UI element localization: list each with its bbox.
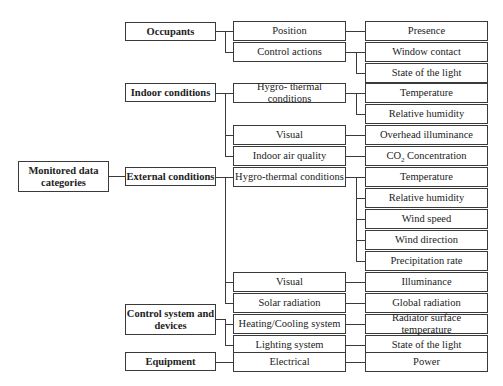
item-label: Presence	[408, 25, 445, 37]
item-label: Global radiation	[392, 297, 461, 309]
item-radiator-surface-temperature: Radiator surface temperature	[365, 314, 488, 334]
category-equipment: Equipment	[125, 352, 216, 371]
category-label: External conditions	[127, 171, 215, 183]
category-label: Indoor conditions	[131, 87, 210, 99]
connector	[225, 324, 226, 345]
item-label: Wind direction	[395, 234, 458, 246]
subcategory-external-visual: Visual	[233, 272, 346, 292]
item-label: Illuminance	[401, 276, 451, 288]
category-label: Equipment	[145, 356, 195, 368]
item-label: State of the light	[392, 67, 462, 79]
subcategory-external-hygro-thermal: Hygro-thermal conditions	[233, 167, 346, 187]
connector	[345, 324, 366, 325]
subcategory-position: Position	[233, 21, 346, 41]
item-label: Relative humidity	[389, 192, 465, 204]
subcategory-control-actions: Control actions	[233, 42, 346, 62]
item-wind-speed: Wind speed	[365, 209, 488, 229]
item-precipitation-rate: Precipitation rate	[365, 251, 488, 271]
connector	[345, 303, 366, 304]
category-occupants: Occupants	[125, 22, 216, 41]
item-label: Temperature	[400, 171, 453, 183]
item-indoor-temperature: Temperature	[365, 83, 488, 103]
item-indoor-relative-humidity: Relative humidity	[365, 104, 488, 124]
item-label: CO2 Concentration	[386, 150, 466, 162]
root-node-monitored-data-categories: Monitored data categories	[18, 161, 109, 192]
connector	[225, 31, 226, 52]
item-overhead-illuminance: Overhead illuminance	[365, 125, 488, 145]
subcategory-indoor-hygro-thermal: Hygro- thermal conditions	[233, 83, 346, 103]
item-power: Power	[365, 352, 488, 372]
item-label: Temperature	[400, 87, 453, 99]
connector	[225, 93, 226, 156]
connector	[225, 177, 226, 303]
item-illuminance: Illuminance	[365, 272, 488, 292]
subcategory-label: Electrical	[269, 356, 309, 368]
item-window-contact: Window contact	[365, 42, 488, 62]
subcategory-label: Hygro- thermal conditions	[234, 81, 345, 105]
subcategory-label: Visual	[276, 129, 303, 141]
item-external-temperature: Temperature	[365, 167, 488, 187]
root-label: Monitored data categories	[19, 165, 108, 189]
subcategory-label: Hygro-thermal conditions	[235, 171, 344, 183]
item-wind-direction: Wind direction	[365, 230, 488, 250]
category-external-conditions: External conditions	[125, 167, 216, 186]
subcategory-label: Heating/Cooling system	[239, 318, 341, 330]
subcategory-label: Lighting system	[256, 339, 324, 351]
subcategory-indoor-air-quality: Indoor air quality	[233, 146, 346, 166]
category-control-system-and-devices: Control system and devices	[125, 304, 216, 335]
item-label: Radiator surface temperature	[366, 312, 487, 336]
item-label: Wind speed	[402, 213, 451, 225]
connector	[356, 52, 357, 73]
subcategory-indoor-visual: Visual	[233, 125, 346, 145]
item-label: Precipitation rate	[390, 255, 462, 267]
connector	[215, 362, 234, 363]
item-label: Power	[413, 356, 440, 368]
subcategory-label: Visual	[276, 276, 303, 288]
item-global-radiation: Global radiation	[365, 293, 488, 313]
connector	[108, 176, 126, 177]
connector	[345, 282, 366, 283]
connector	[356, 93, 357, 114]
item-label: Relative humidity	[389, 108, 465, 120]
subcategory-label: Indoor air quality	[253, 150, 326, 162]
item-label: State of the light	[392, 339, 462, 351]
subcategory-electrical: Electrical	[233, 352, 346, 372]
item-state-of-the-light: State of the light	[365, 63, 488, 83]
subcategory-label: Solar radiation	[258, 297, 320, 309]
subcategory-label: Position	[272, 25, 306, 37]
item-external-relative-humidity: Relative humidity	[365, 188, 488, 208]
category-label: Occupants	[147, 26, 195, 38]
subcategory-label: Control actions	[257, 46, 321, 58]
item-label: Overhead illuminance	[380, 129, 473, 141]
item-co2-concentration: CO2 Concentration	[365, 146, 488, 166]
category-indoor-conditions: Indoor conditions	[125, 83, 216, 102]
connector	[345, 135, 366, 136]
subcategory-heating-cooling-system: Heating/Cooling system	[233, 314, 346, 334]
subcategory-solar-radiation: Solar radiation	[233, 293, 346, 313]
connector	[345, 31, 366, 32]
item-label: Window contact	[392, 46, 461, 58]
connector	[345, 362, 366, 363]
connector	[215, 319, 225, 320]
connector	[345, 345, 366, 346]
item-presence: Presence	[365, 21, 488, 41]
connector	[345, 156, 366, 157]
category-label: Control system and devices	[126, 308, 215, 332]
